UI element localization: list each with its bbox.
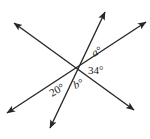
figure-canvas: a° 34° b° 20° [0,0,150,139]
labels-group: a° 34° b° 20° [47,43,104,98]
geometry-figure: a° 34° b° 20° [0,0,150,139]
angle-label-b: b° [71,76,85,91]
angle-label-a: a° [89,43,104,59]
angle-label-34: 34° [88,64,103,76]
line-upper-right-to-lower-left [7,22,146,113]
angle-label-20: 20° [47,81,66,99]
lines-group [7,12,146,128]
